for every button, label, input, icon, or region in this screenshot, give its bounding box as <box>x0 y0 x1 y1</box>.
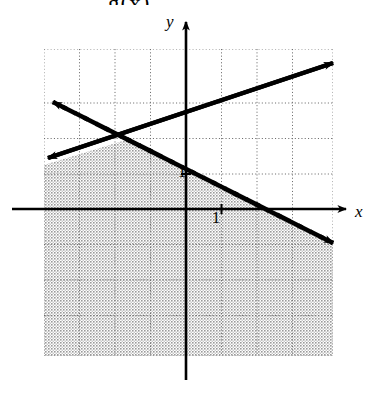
solid-boundary-line <box>48 63 333 158</box>
x-axis-label: x <box>355 202 363 222</box>
coordinate-plane-svg <box>0 0 381 396</box>
figure-title-cropped: g(x) <box>108 0 150 5</box>
y-axis-label: y <box>166 12 174 32</box>
y-axis-tick-label-one: 1 <box>178 163 186 181</box>
graph-figure: g(x) y x 1 1 <box>0 0 381 396</box>
x-axis-tick-label-one: 1 <box>212 209 220 227</box>
